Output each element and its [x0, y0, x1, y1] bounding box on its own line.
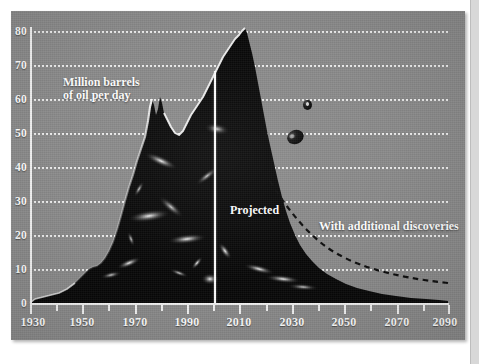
oil-droplet-small: [303, 100, 312, 110]
additional-discoveries-label: With additional discoveries: [319, 220, 459, 233]
oil-droplet-small-highlight: [306, 102, 309, 106]
chart-panel: Million barrels of oil per day Projected…: [11, 11, 465, 340]
oil-droplet-large-highlight: [289, 133, 295, 139]
projected-divider-line: [214, 71, 216, 305]
plot-area: Million barrels of oil per day Projected…: [11, 11, 465, 340]
additional-discoveries-dashed-curve: [11, 11, 465, 340]
figure-root: Million barrels of oil per day Projected…: [0, 0, 479, 364]
y-axis-title: Million barrels of oil per day: [63, 76, 140, 103]
page-margin-strip: [471, 0, 479, 364]
projected-label: Projected: [230, 204, 279, 217]
